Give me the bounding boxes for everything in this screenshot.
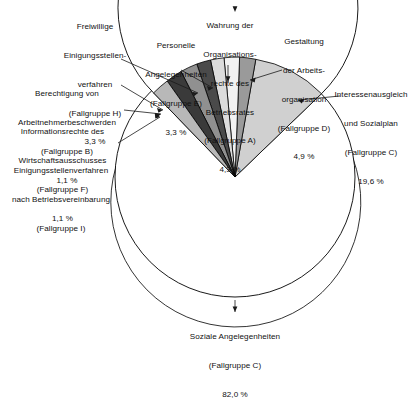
label-soziale-line2: (Fallgruppe C) [165, 361, 305, 371]
label-berechtigung-line1: Berechtigung von [13, 89, 121, 99]
label-interessenausgleich: Interessenausgleich und Sozialplan (Fall… [328, 71, 414, 205]
label-interessenausgleich-line2: und Sozialplan [328, 119, 414, 129]
label-soziale-line1: Soziale Angelegenheiten [165, 332, 305, 342]
label-interessenausgleich-value: 19,6 % [328, 177, 414, 187]
label-wahrung-line5: (Fallgruppe A) [186, 136, 274, 146]
label-freiwillige-line2: Einigungsstellen- [48, 51, 142, 61]
label-informationsrechte-line1: Informationsrechte des [5, 127, 120, 137]
label-wahrung-value: 4,3 % [186, 165, 274, 175]
label-wahrung: Wahrung der Organisations- rechte des Be… [186, 2, 274, 194]
label-interessenausgleich-line1: Interessenausgleich [328, 90, 414, 100]
label-soziale: Soziale Angelegenheiten (Fallgruppe C) 8… [165, 313, 305, 402]
label-einigungsstellen-line1: Einigungsstellenverfahren [1, 166, 121, 176]
label-freiwillige-line1: Freiwillige [48, 22, 142, 32]
label-einigungsstellen: Einigungsstellenverfahren nach Betriebsv… [1, 147, 121, 253]
label-einigungsstellen-line2: nach Betriebsvereinbarung [1, 195, 121, 205]
label-interessenausgleich-line3: (Fallgruppe C) [328, 148, 414, 158]
label-wahrung-line2: Organisations- [186, 50, 274, 60]
label-gestaltung-line1: Gestaltung [262, 37, 346, 47]
label-wahrung-line1: Wahrung der [186, 21, 274, 31]
label-wahrung-line3: rechte des [186, 79, 274, 89]
label-wahrung-line4: Betriebsrates [186, 108, 274, 118]
label-einigungsstellen-line3: (Fallgruppe I) [1, 224, 121, 234]
label-soziale-value: 82,0 % [165, 390, 305, 400]
